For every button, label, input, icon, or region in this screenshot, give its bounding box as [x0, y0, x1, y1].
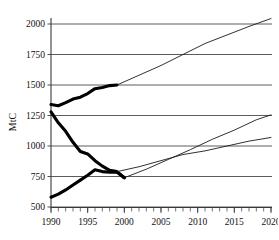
series-line-lower-series-projection [117, 137, 271, 171]
x-tick-label: 1990 [42, 217, 61, 227]
y-tick-label: 1500 [26, 80, 45, 90]
x-tick-labels: 1990199520002005201020152020 [42, 217, 279, 227]
y-tick-label: 2000 [26, 19, 45, 29]
y-tick-labels: 50075010001250150017502000 [26, 19, 45, 212]
series-line-upper-series-historical [51, 85, 117, 106]
x-tick-label: 1995 [78, 217, 97, 227]
x-tick-label: 2005 [152, 217, 171, 227]
gridlines-group [51, 24, 272, 207]
y-axis-title: MtC [7, 113, 18, 132]
x-axis-group: 1990199520002005201020152020 [42, 208, 279, 228]
x-tick-label: 2000 [115, 217, 134, 227]
line-chart: 50075010001250150017502000 MtC 199019952… [0, 0, 278, 240]
x-tick-label: 2020 [262, 217, 279, 227]
series-line-middle-series-historical [51, 112, 124, 178]
series-line-lower-series-historical [51, 170, 124, 197]
y-tick-label: 500 [31, 202, 46, 212]
y-tick-label: 750 [31, 172, 46, 182]
series-group [51, 19, 271, 198]
y-tick-label: 1750 [26, 50, 45, 60]
x-tick-marks [51, 208, 271, 214]
chart-container: 50075010001250150017502000 MtC 199019952… [0, 0, 278, 240]
y-tick-label: 1250 [26, 111, 45, 121]
x-tick-label: 2010 [188, 217, 207, 227]
x-tick-label: 2015 [225, 217, 244, 227]
y-tick-label: 1000 [26, 141, 45, 151]
series-line-upper-series-projection [117, 19, 271, 85]
y-axis-group: 50075010001250150017502000 MtC [7, 18, 51, 212]
